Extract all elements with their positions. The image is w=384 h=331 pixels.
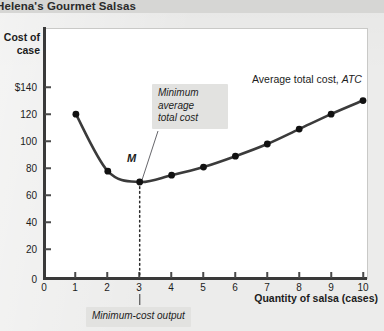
figure-root: Helena's Gourmet Salsas Cost of case Qua… xyxy=(0,0,384,331)
point-label-m: M xyxy=(127,152,136,164)
minimum-cost-output-callout: Minimum-cost output xyxy=(86,307,191,327)
atc-curve-label-abbrev: ATC xyxy=(342,73,362,85)
data-point-marker-9 xyxy=(328,111,335,118)
minimum-callout-leader-line xyxy=(142,131,158,181)
data-point-marker-4 xyxy=(168,172,175,179)
data-point-marker-6 xyxy=(232,153,239,160)
data-point-marker-3 xyxy=(136,179,143,186)
atc-curve-label-text: Average total cost, xyxy=(252,73,342,85)
data-point-marker-8 xyxy=(296,126,303,133)
data-point-marker-2 xyxy=(104,168,111,175)
atc-curve-label: Average total cost, ATC xyxy=(252,73,362,85)
data-point-marker-1 xyxy=(73,111,80,118)
atc-curve-layer xyxy=(0,0,384,331)
minimum-average-total-cost-callout: Minimum average total cost xyxy=(152,84,228,129)
data-point-marker-10 xyxy=(360,97,367,104)
data-point-marker-5 xyxy=(200,164,207,171)
data-point-marker-7 xyxy=(264,141,271,148)
